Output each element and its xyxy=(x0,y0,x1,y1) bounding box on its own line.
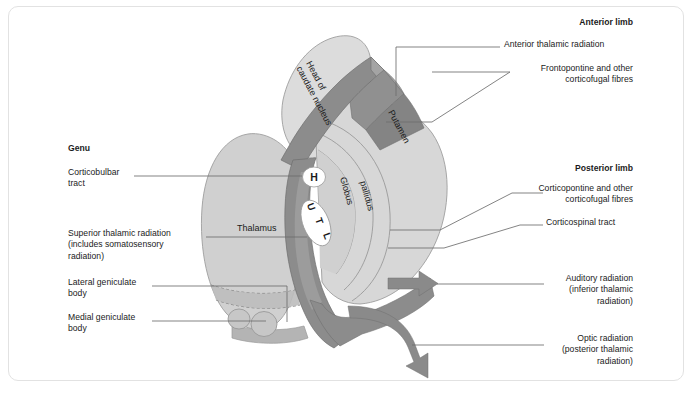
marker-utl-group: U T L xyxy=(295,196,337,250)
label-corticospinal-tract: Corticospinal tract xyxy=(546,217,696,228)
figure-caption xyxy=(0,386,700,397)
label-genu: Genu xyxy=(68,143,188,154)
label-anterior-thalamic-radiation: Anterior thalamic radiation xyxy=(504,39,664,50)
label-posterior-limb: Posterior limb xyxy=(440,163,633,174)
label-medial-geniculate-body: Medial geniculate body xyxy=(68,312,188,335)
marker-head-letter: H xyxy=(310,171,318,183)
marker-head-group: H xyxy=(303,167,326,187)
label-corticobulbar-tract: Corticobulbar tract xyxy=(68,167,188,190)
label-frontopontine-fibres: Frontopontine and other corticofugal fib… xyxy=(440,63,633,86)
label-optic-radiation: Optic radiation (posterior thalamic radi… xyxy=(470,333,633,367)
label-auditory-radiation: Auditory radiation (inferior thalamic ra… xyxy=(470,273,633,307)
label-superior-thalamic-radiation: Superior thalamic radiation (includes so… xyxy=(68,228,228,262)
label-lateral-geniculate-body: Lateral geniculate body xyxy=(68,277,188,300)
diagram-canvas: Head of caudate nucleus Putamen Globus p… xyxy=(0,0,700,397)
label-corticopontine-fibres: Corticopontine and other corticofugal fi… xyxy=(440,183,633,206)
label-anterior-limb: Anterior limb xyxy=(440,17,633,28)
